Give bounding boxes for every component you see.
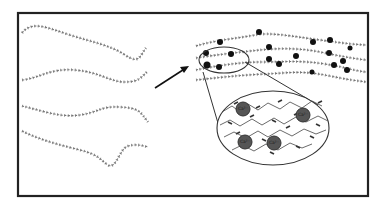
ion-dot (266, 44, 272, 50)
ion-dot (256, 29, 262, 35)
transition-arrow (155, 66, 189, 88)
ca-ion-2: Ca²⁺ (296, 108, 310, 122)
ion-dot (327, 37, 333, 43)
polymer-chain-1 (22, 26, 146, 59)
ion-dot (348, 46, 353, 51)
ion-dot (228, 51, 234, 57)
ion-dot (326, 50, 332, 56)
ion-dot (266, 56, 272, 62)
ion-label: Ca²⁺ (269, 140, 280, 145)
ion-label: Ca²⁺ (298, 112, 309, 117)
ion-dot (310, 39, 316, 45)
magnified-view: Ca²⁺ Ca²⁺ Ca²⁺ Ca²⁺ (217, 91, 329, 165)
ion-dot (310, 70, 315, 75)
polymer-chain-2 (22, 70, 147, 82)
ca-ion-4: Ca²⁺ (267, 136, 281, 150)
ion-dot (331, 62, 337, 68)
ion-dot (216, 64, 222, 70)
ion-dot (276, 61, 282, 67)
ion-label: Ca²⁺ (240, 139, 251, 144)
selection-ellipse (199, 47, 249, 73)
ion-dot (204, 62, 211, 69)
ca-ion-1: Ca²⁺ (236, 102, 250, 116)
ion-dot (217, 39, 223, 45)
ca-ion-3: Ca²⁺ (238, 135, 252, 149)
polymer-chain-3 (22, 106, 148, 122)
diagram-canvas: Ca²⁺ Ca²⁺ Ca²⁺ Ca²⁺ (0, 0, 381, 210)
ion-dot (293, 53, 299, 59)
ion-dot (344, 67, 350, 73)
ion-label: Ca²⁺ (238, 106, 249, 111)
free-chains-group (22, 26, 148, 166)
polymer-chain-4 (22, 131, 148, 166)
ion-dot (340, 58, 346, 64)
